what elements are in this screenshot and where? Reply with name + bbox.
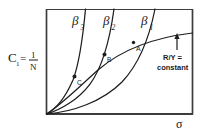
- y-axis-label-numerator: 1: [31, 50, 36, 60]
- beta-3-subscript: 3: [80, 23, 85, 32]
- point-b-marker: [103, 53, 107, 57]
- point-markers: [73, 41, 136, 79]
- x-axis-label: σ: [176, 117, 183, 131]
- beta-2-base: β: [102, 13, 110, 28]
- figure-container: A B C β 3 β 2 β 1 R/Y = constant C 1 = 1: [0, 0, 203, 132]
- point-c-label: C: [77, 79, 82, 86]
- curve-label-beta-1: β 1: [140, 13, 153, 32]
- beta-1-subscript: 1: [150, 23, 154, 32]
- y-axis-label: C 1 = 1 N: [8, 50, 38, 72]
- diagram-canvas: A B C β 3 β 2 β 1 R/Y = constant C 1 = 1: [0, 0, 203, 132]
- point-b-label: B: [107, 56, 111, 63]
- point-a-marker: [132, 41, 135, 44]
- ry-annotation-line1: R/Y =: [163, 53, 182, 62]
- ry-annotation-line2: constant: [157, 63, 189, 72]
- point-a-label: A: [136, 45, 141, 52]
- beta-3-base: β: [71, 13, 79, 28]
- curve-ry-constant: [47, 33, 193, 114]
- beta-2-subscript: 2: [112, 23, 116, 32]
- y-axis-label-equals: =: [20, 52, 26, 64]
- point-c-marker: [73, 75, 77, 79]
- beta-1-base: β: [140, 13, 148, 28]
- y-axis-label-denominator: N: [30, 62, 37, 72]
- curve-label-beta-3: β 3: [71, 13, 85, 32]
